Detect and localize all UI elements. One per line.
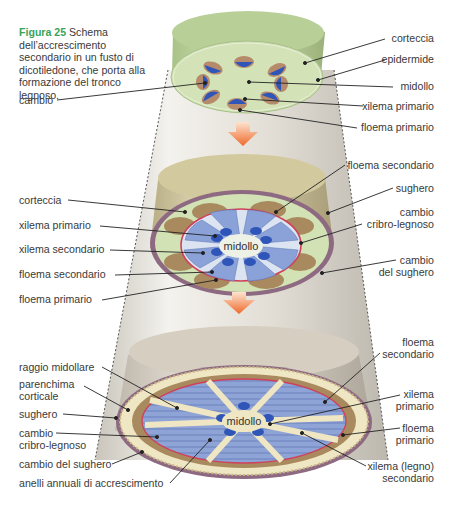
stage-3-woody-trunk: midollo (115, 326, 372, 479)
stage-2-early-secondary: midollo (150, 154, 334, 296)
label-corteccia: corteccia (19, 194, 61, 206)
label-raggio-midollare: raggio midollare (19, 361, 94, 373)
label-xilema-primario: xilema primario (396, 388, 434, 413)
label-cambio-cribro-legnoso: cambio cribro-legnoso (367, 206, 434, 231)
label-xilema-primario: xilema primario (362, 100, 434, 112)
center-label-midollo: midollo (224, 240, 259, 252)
label-cambio-del-sughero: cambio del sughero (19, 458, 111, 470)
label-parenchima-corticale: parenchima corticale (19, 378, 74, 403)
label-cambio-cribro-legnoso: cambio cribro-legnoso (19, 427, 86, 452)
label-anelli-annuali: anelli annuali di accrescimento (19, 477, 163, 489)
label-floema-secondario: floema secondario (347, 159, 434, 171)
label-cambio: cambio (19, 94, 53, 106)
label-floema-primario: floema primario (361, 121, 434, 133)
label-sughero: sughero (396, 182, 434, 194)
label-floema-primario: floema primario (396, 422, 434, 447)
stage-1-primary-stem (171, 11, 325, 113)
label-floema-secondario: floema secondario (19, 268, 106, 280)
label-cambio-del-sughero: cambio del sughero (379, 254, 434, 279)
label-midollo: midollo (400, 80, 434, 92)
label-xilema-primario: xilema primario (19, 219, 91, 231)
label-epidermide: epidermide (382, 53, 434, 65)
label-floema-primario: floema primario (19, 293, 92, 305)
label-sughero: sughero (19, 408, 57, 420)
label-xilema-legno-secondario: xilema (legno) secondario (367, 460, 434, 485)
center-label-midollo: midollo (227, 415, 262, 427)
label-xilema-secondario: xilema secondario (19, 243, 104, 255)
label-floema-secondario: floema secondario (382, 336, 434, 361)
label-corteccia: corteccia (392, 32, 434, 44)
